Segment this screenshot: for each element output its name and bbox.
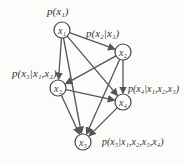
edges [59,33,123,136]
label-p-x1: p(x₁) [47,6,69,17]
graphical-model-diagram: x₁x₂x₃x₄x₅ p(x₁) p(x₂|x₁) p(x₃|x₁,x₂) p(… [0,0,185,163]
node-label-x5: x₅ [78,137,87,148]
label-p-x5: p(x₅|x₁,x₂,x₃,x₄) [102,137,163,147]
edge-x3-x5 [61,95,79,134]
edge-x3-x4 [66,90,114,100]
label-p-x3: p(x₃|x₁,x₂) [12,68,57,79]
label-p-x2-given-x1: p(x₂|x₁) [86,28,119,39]
edge-x1-x4 [67,36,117,95]
node-label-x3: x₃ [53,83,62,94]
edge-x1-x3 [59,38,62,79]
edge-x2-x3 [66,56,116,84]
nodes: x₁x₂x₃x₄x₅ [50,22,131,150]
node-label-x1: x₁ [57,25,66,36]
node-label-x4: x₄ [118,97,127,108]
edge-x4-x5 [89,108,117,136]
label-p-x4: p(x₄|x₁,x₂,x₃) [128,84,179,94]
node-label-x2: x₂ [118,47,127,58]
